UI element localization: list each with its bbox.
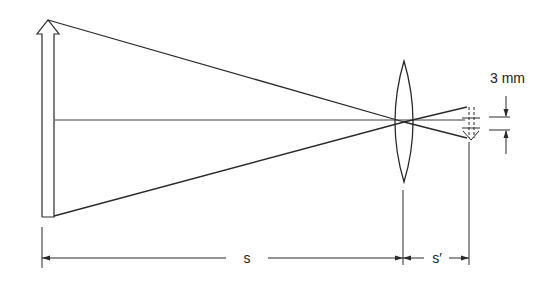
s-prime-left-arrowhead bbox=[403, 256, 411, 261]
size-top-arrowhead bbox=[504, 109, 509, 117]
s-right-arrowhead bbox=[395, 256, 403, 261]
extension-lines bbox=[42, 142, 469, 268]
s-left-arrowhead bbox=[42, 256, 50, 261]
size-bottom-arrowhead bbox=[504, 130, 509, 138]
image-size-label: 3 mm bbox=[490, 70, 525, 86]
lens-diagram: s s′ 3 mm bbox=[0, 0, 559, 284]
image-arrow bbox=[462, 107, 480, 140]
s-prime-right-arrowhead bbox=[461, 256, 469, 261]
light-rays bbox=[48, 20, 467, 216]
image-size-dimension bbox=[489, 96, 510, 154]
object-distance-label: s bbox=[244, 250, 251, 266]
image-distance-label: s′ bbox=[432, 250, 442, 266]
object-arrow bbox=[37, 20, 59, 217]
